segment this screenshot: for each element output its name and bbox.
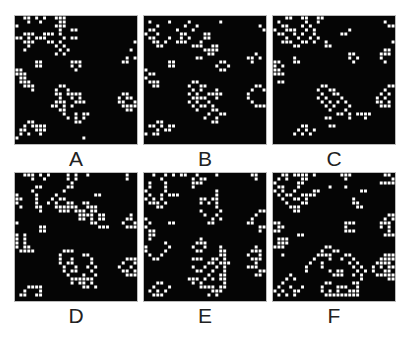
cell-grid	[144, 173, 266, 301]
panel-label-d: D	[14, 305, 138, 327]
grid-panel-a	[14, 15, 138, 145]
grid-panel-e	[143, 172, 267, 302]
grid-panel-d	[14, 172, 138, 302]
cell-grid	[15, 16, 137, 144]
panel-label-c: C	[272, 148, 396, 170]
grid-panel-f	[272, 172, 396, 302]
panel-label-a: A	[14, 148, 138, 170]
grid-panel-c	[272, 15, 396, 145]
panel-label-f: F	[272, 305, 396, 327]
grid-panel-b	[143, 15, 267, 145]
cell-grid	[15, 173, 137, 301]
panel-label-b: B	[143, 148, 267, 170]
cell-grid	[273, 16, 395, 144]
cell-grid	[273, 173, 395, 301]
panel-label-e: E	[143, 305, 267, 327]
cell-grid	[144, 16, 266, 144]
